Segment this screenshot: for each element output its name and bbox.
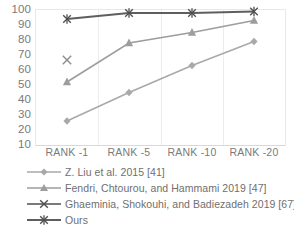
y-tick-50: 50 xyxy=(18,79,31,91)
legend-marker-asterisk-icon xyxy=(26,213,62,227)
y-tick-80: 80 xyxy=(18,34,31,46)
y-tick-90: 90 xyxy=(18,19,31,31)
legend-item-liu: Z. Liu et al. 2015 [41] xyxy=(26,164,294,180)
legend-label-liu: Z. Liu et al. 2015 [41] xyxy=(62,165,165,179)
legend-marker-triangle-icon xyxy=(26,181,62,195)
plot-area: 100 90 80 70 60 50 40 30 20 10 RANK -1 R… xyxy=(0,0,294,160)
x-tick-rank-1: RANK -1 xyxy=(36,146,98,158)
chart-legend: Z. Liu et al. 2015 [41] Fendri, Chtourou… xyxy=(26,164,294,228)
plot-canvas xyxy=(0,0,294,160)
y-tick-20: 20 xyxy=(18,124,31,136)
x-tick-rank-10: RANK -10 xyxy=(161,146,223,158)
y-tick-30: 30 xyxy=(18,109,31,121)
legend-item-ghaeminia: Ghaeminia, Shokouhi, and Badiezadeh 2019… xyxy=(26,196,294,212)
legend-label-ours: Ours xyxy=(62,213,88,227)
legend-item-ours: Ours xyxy=(26,212,294,228)
y-axis-labels: 100 90 80 70 60 50 40 30 20 10 xyxy=(0,0,33,155)
legend-label-fendri: Fendri, Chtourou, and Hammami 2019 [47] xyxy=(62,181,267,195)
legend-label-ghaeminia: Ghaeminia, Shokouhi, and Badiezadeh 2019… xyxy=(62,197,294,211)
x-axis-labels: RANK -1 RANK -5 RANK -10 RANK -20 xyxy=(0,146,294,162)
y-tick-60: 60 xyxy=(18,64,31,76)
legend-marker-x-icon xyxy=(26,197,62,211)
y-tick-70: 70 xyxy=(18,49,31,61)
legend-marker-diamond-icon xyxy=(26,165,62,179)
y-tick-40: 40 xyxy=(18,94,31,106)
x-tick-rank-20: RANK -20 xyxy=(223,146,285,158)
x-tick-rank-5: RANK -5 xyxy=(98,146,160,158)
legend-item-fendri: Fendri, Chtourou, and Hammami 2019 [47] xyxy=(26,180,294,196)
y-tick-100: 100 xyxy=(12,4,32,16)
line-chart: 100 90 80 70 60 50 40 30 20 10 RANK -1 R… xyxy=(0,0,294,231)
